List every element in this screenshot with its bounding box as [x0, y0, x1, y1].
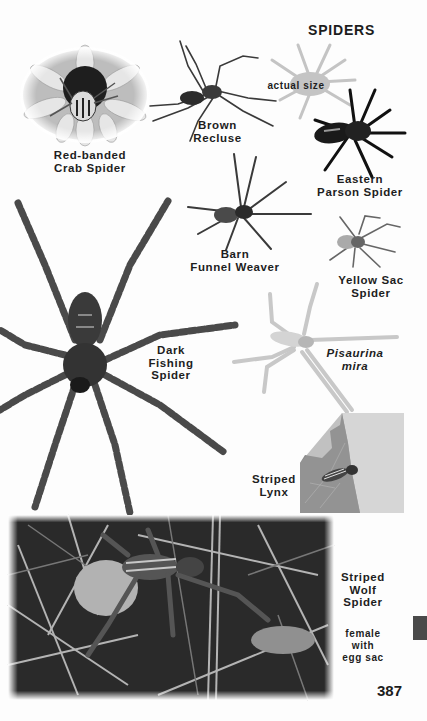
label-dark-fishing-spider: Dark Fishing Spider [148, 344, 194, 382]
page-number: 387 [377, 682, 402, 699]
label-red-banded-crab-spider: Red-banded Crab Spider [40, 149, 140, 174]
label-eastern-parson-spider: Eastern Parson Spider [310, 173, 410, 198]
field-guide-page: SPIDERS Red-banded Crab Spider [0, 0, 427, 721]
section-title: SPIDERS [308, 22, 375, 38]
section-thumb-tab [413, 616, 427, 640]
dark-fishing-spider-image [0, 195, 240, 520]
label-striped-lynx: Striped Lynx [250, 473, 298, 498]
label-brown-recluse: Brown Recluse [180, 119, 255, 144]
crab-spider-photo [20, 48, 150, 143]
striped-wolf-spider-photo [8, 515, 334, 700]
label-pisaurina-mira: Pisaurina mira [325, 347, 385, 372]
eastern-parson-spider-image [300, 85, 410, 180]
striped-lynx-photo [300, 413, 404, 513]
caption-female-with-egg-sac: female with egg sac [338, 628, 388, 664]
yellow-sac-spider-image [325, 212, 405, 272]
label-striped-wolf-spider: Striped Wolf Spider [338, 571, 388, 609]
